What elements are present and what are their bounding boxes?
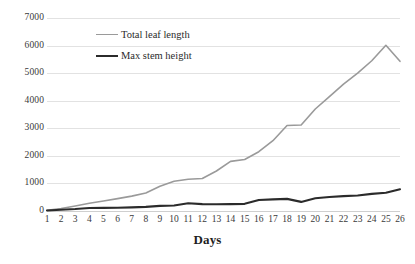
chart-legend: Total leaf lengthMax stem height [96, 26, 276, 68]
x-axis-tick-label: 13 [212, 214, 222, 224]
x-axis-tick-label: 26 [395, 214, 405, 224]
legend-item-label: Total leaf length [121, 29, 190, 40]
series-line [47, 189, 400, 210]
x-axis-tick-label: 14 [226, 214, 236, 224]
y-axis-tick-label: 4000 [0, 96, 44, 106]
y-axis-tick-label: 7000 [0, 13, 44, 23]
x-axis-tick-label: 22 [339, 214, 349, 224]
x-axis-tick-label: 9 [158, 214, 163, 224]
x-axis-tick-label: 2 [59, 214, 64, 224]
x-axis-tick-label: 10 [169, 214, 179, 224]
x-axis-tick-label: 19 [296, 214, 306, 224]
x-axis-tick-label: 3 [73, 214, 78, 224]
legend-item: Total leaf length [96, 26, 276, 43]
y-axis: 01000200030004000500060007000 [0, 18, 44, 211]
legend-item: Max stem height [96, 47, 276, 64]
x-axis-tick-label: 6 [115, 214, 120, 224]
x-axis-line [47, 211, 400, 212]
x-axis-tick-label: 8 [143, 214, 148, 224]
x-axis-tick-label: 24 [367, 214, 377, 224]
y-axis-tick-label: 0 [0, 206, 44, 216]
x-axis-tick-label: 4 [87, 214, 92, 224]
y-axis-tick-label: 2000 [0, 151, 44, 161]
x-axis-tick-label: 7 [129, 214, 134, 224]
y-axis-tick-label: 6000 [0, 41, 44, 51]
x-axis-tick-label: 17 [268, 214, 278, 224]
x-axis-tick-label: 11 [184, 214, 193, 224]
legend-swatch-icon [96, 34, 118, 35]
x-axis-tick-label: 20 [311, 214, 321, 224]
x-axis-tick-label: 1 [45, 214, 50, 224]
x-axis-tick-label: 15 [240, 214, 250, 224]
x-axis-tick-label: 16 [254, 214, 264, 224]
x-axis-tick-label: 18 [282, 214, 292, 224]
line-chart: 01000200030004000500060007000 1234567891… [0, 0, 415, 264]
x-axis-title: Days [0, 232, 415, 248]
x-axis-tick-label: 12 [198, 214, 208, 224]
y-axis-tick-label: 3000 [0, 123, 44, 133]
x-axis: 1234567891011121314151617181920212223242… [47, 214, 400, 228]
y-axis-tick-label: 5000 [0, 68, 44, 78]
y-axis-tick-label: 1000 [0, 178, 44, 188]
legend-swatch-icon [96, 55, 118, 57]
x-axis-tick-label: 23 [353, 214, 363, 224]
x-axis-tick-label: 5 [101, 214, 106, 224]
x-axis-tick-label: 21 [325, 214, 335, 224]
legend-item-label: Max stem height [121, 50, 192, 61]
series-line [47, 45, 400, 210]
x-axis-tick-label: 25 [381, 214, 391, 224]
